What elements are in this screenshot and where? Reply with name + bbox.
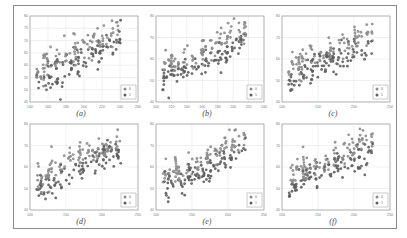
svg-text:80: 80 — [276, 122, 280, 126]
svg-text:60: 60 — [24, 165, 28, 169]
svg-text:50: 50 — [276, 187, 280, 191]
svg-text:40: 40 — [276, 100, 280, 104]
panel-caption: (c) — [270, 109, 396, 118]
svg-text:50: 50 — [24, 187, 28, 191]
svg-text:0: 0 — [129, 87, 131, 91]
svg-text:55: 55 — [24, 76, 28, 80]
svg-text:1: 1 — [381, 93, 383, 97]
scatter-panel-c: 100150200250405060708001 (c) — [270, 10, 396, 118]
svg-text:1: 1 — [255, 201, 257, 205]
svg-text:75: 75 — [24, 26, 28, 30]
svg-text:80: 80 — [276, 14, 280, 18]
legend: 01 — [247, 85, 262, 99]
scatter-plot: 100150200250405060708001 — [18, 118, 144, 218]
svg-text:40: 40 — [24, 208, 28, 212]
svg-text:70: 70 — [150, 144, 154, 148]
scatter-panel-e: 100150200250405060708001 (e) — [144, 118, 270, 226]
svg-text:70: 70 — [150, 36, 154, 40]
svg-text:60: 60 — [150, 57, 154, 61]
svg-text:40: 40 — [150, 100, 154, 104]
svg-text:1: 1 — [129, 201, 131, 205]
svg-text:60: 60 — [276, 57, 280, 61]
svg-text:45: 45 — [24, 100, 28, 104]
svg-text:50: 50 — [150, 79, 154, 83]
svg-text:80: 80 — [24, 14, 28, 18]
scatter-panel-d: 100150200250405060708001 (d) — [18, 118, 144, 226]
scatter-plot: 100150200250405060708001 — [270, 118, 396, 218]
panel-caption: (f) — [270, 217, 396, 226]
svg-text:70: 70 — [276, 144, 280, 148]
panel-caption: (a) — [18, 109, 144, 118]
svg-text:80: 80 — [150, 122, 154, 126]
legend: 01 — [373, 193, 388, 207]
scatter-plot: 100150200250405060708001 — [144, 118, 270, 218]
svg-text:0: 0 — [381, 195, 383, 199]
svg-text:1: 1 — [255, 93, 257, 97]
svg-text:80: 80 — [150, 14, 154, 18]
scatter-panel-b: 100120140160180200220240405060708001 (b) — [144, 10, 270, 118]
svg-text:1: 1 — [129, 93, 131, 97]
panel-caption: (e) — [144, 217, 270, 226]
svg-text:80: 80 — [24, 122, 28, 126]
scatter-plot: 140160180200220240260455055606570758001 — [18, 10, 144, 110]
svg-text:60: 60 — [24, 63, 28, 67]
svg-text:70: 70 — [24, 144, 28, 148]
scatter-panel-a: 140160180200220240260455055606570758001 … — [18, 10, 144, 118]
svg-text:0: 0 — [129, 195, 131, 199]
svg-text:60: 60 — [276, 165, 280, 169]
legend: 01 — [121, 85, 136, 99]
svg-text:65: 65 — [24, 51, 28, 55]
legend: 01 — [247, 193, 262, 207]
panel-caption: (d) — [18, 217, 144, 226]
svg-text:0: 0 — [255, 195, 257, 199]
svg-text:1: 1 — [381, 201, 383, 205]
svg-text:50: 50 — [150, 187, 154, 191]
svg-text:0: 0 — [255, 87, 257, 91]
svg-text:70: 70 — [24, 39, 28, 43]
legend: 01 — [373, 85, 388, 99]
svg-text:70: 70 — [276, 36, 280, 40]
scatter-plot: 100120140160180200220240405060708001 — [144, 10, 270, 110]
legend: 01 — [121, 193, 136, 207]
svg-text:0: 0 — [381, 87, 383, 91]
scatter-plot: 100150200250405060708001 — [270, 10, 396, 110]
svg-text:50: 50 — [24, 88, 28, 92]
svg-text:40: 40 — [276, 208, 280, 212]
figure-frame: 140160180200220240260455055606570758001 … — [13, 5, 397, 229]
svg-text:50: 50 — [276, 79, 280, 83]
scatter-panel-f: 100150200250405060708001 (f) — [270, 118, 396, 226]
svg-text:40: 40 — [150, 208, 154, 212]
svg-text:60: 60 — [150, 165, 154, 169]
panel-caption: (b) — [144, 109, 270, 118]
